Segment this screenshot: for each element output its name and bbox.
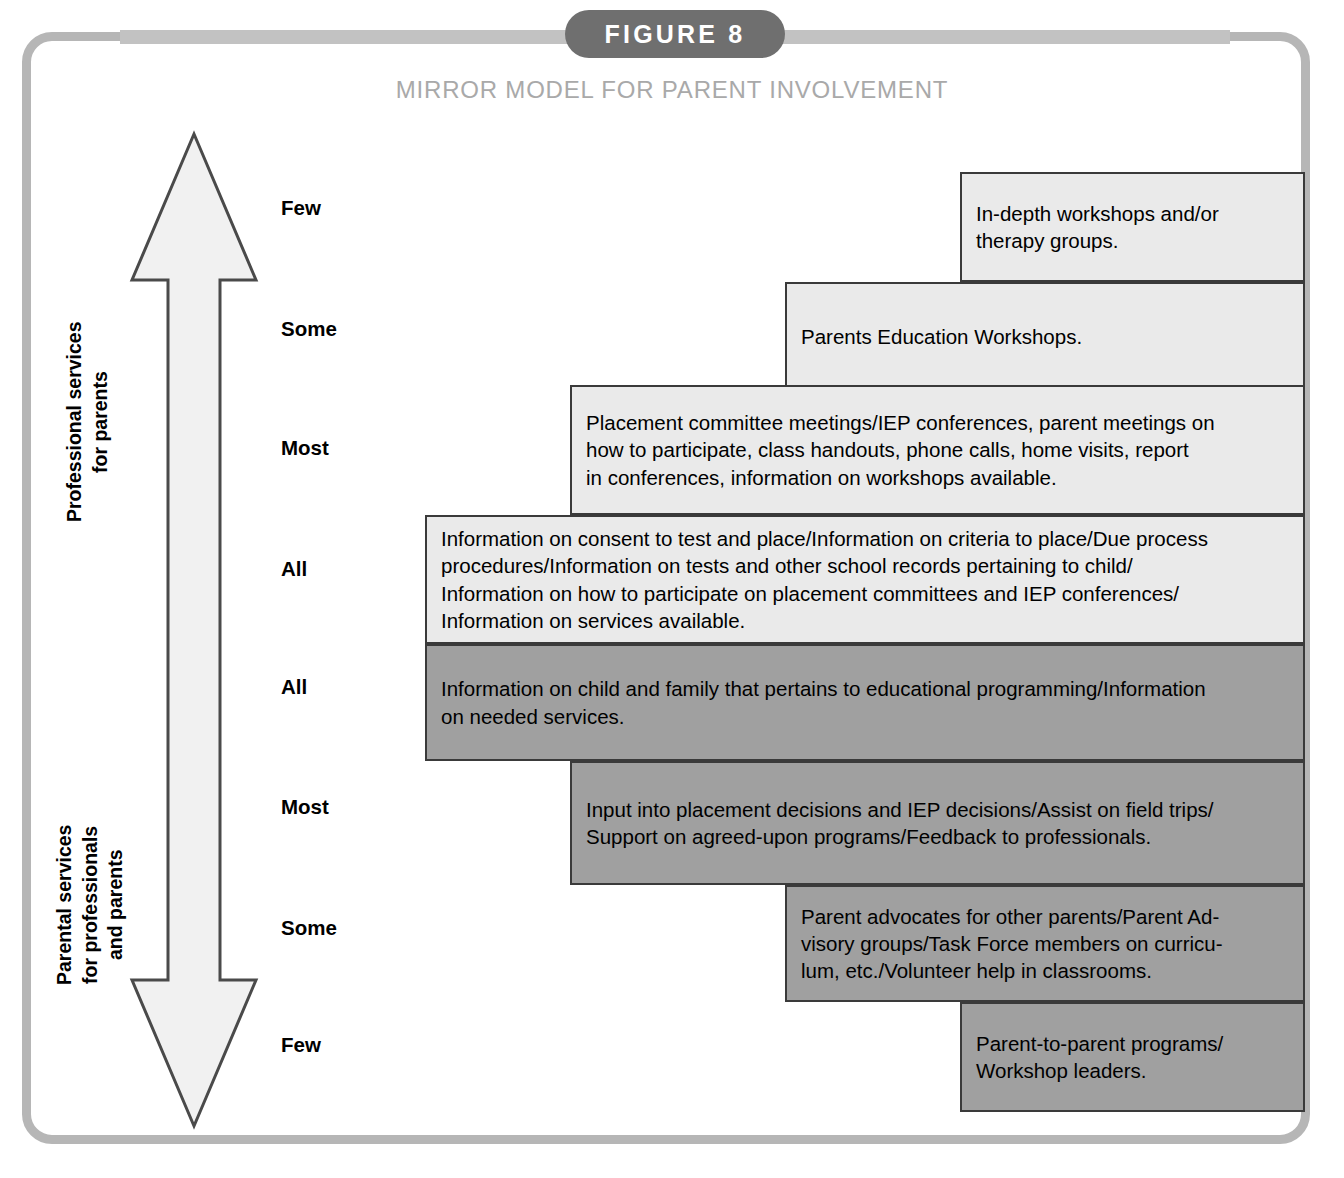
tier-label-all-3: All xyxy=(281,557,411,581)
double-headed-vertical-arrow xyxy=(128,130,260,1130)
figure-number-badge: FIGURE 8 xyxy=(565,10,785,58)
stair-block-professional-most: Placement committee meetings/IEP confere… xyxy=(570,385,1305,515)
stair-block-parental-few: Parent-to-parent programs/ Workshop lead… xyxy=(960,1002,1305,1112)
axis-label-parental-services: Parental services for professionals and … xyxy=(52,770,129,1040)
stair-block-professional-some: Parents Education Workshops. xyxy=(785,282,1305,392)
tier-label-all-4: All xyxy=(281,675,411,699)
tier-label-some-6: Some xyxy=(281,916,411,940)
axis-label-professional-services: Professional services for parents xyxy=(62,272,113,572)
figure-title: MIRROR MODEL FOR PARENT INVOLVEMENT xyxy=(0,76,1344,104)
stair-block-parental-some: Parent advocates for other parents/Paren… xyxy=(785,885,1305,1002)
stair-block-professional-few: In-depth workshops and/or therapy groups… xyxy=(960,172,1305,282)
tier-label-some-1: Some xyxy=(281,317,411,341)
figure-container: FIGURE 8 MIRROR MODEL FOR PARENT INVOLVE… xyxy=(0,0,1344,1178)
stair-block-parental-all: Information on child and family that per… xyxy=(425,644,1305,761)
tier-label-few-0: Few xyxy=(281,196,411,220)
tier-label-most-5: Most xyxy=(281,795,411,819)
stair-block-professional-all: Information on consent to test and place… xyxy=(425,515,1305,644)
tier-label-most-2: Most xyxy=(281,436,411,460)
tier-label-few-7: Few xyxy=(281,1033,411,1057)
stair-block-parental-most: Input into placement decisions and IEP d… xyxy=(570,761,1305,885)
